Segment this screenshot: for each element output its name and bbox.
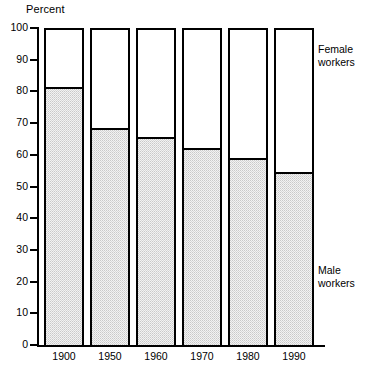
legend-male-workers: Male workers [318, 264, 355, 289]
y-axis-tick-mark [30, 249, 37, 251]
y-axis-tick-mark [30, 122, 37, 124]
bar-1900 [44, 28, 84, 347]
y-axis-tick-mark [30, 217, 37, 219]
legend-female-line1: Female [318, 43, 353, 55]
y-axis-tick-mark [30, 344, 37, 346]
y-axis-tick-label: 40 [0, 212, 28, 223]
legend-female-line2: workers [318, 56, 355, 69]
bar-segment-male-1980 [230, 158, 266, 345]
bar-segment-male-1900 [46, 87, 82, 345]
y-axis-tick-label: 20 [0, 276, 28, 287]
y-axis-tick-mark [30, 186, 37, 188]
y-axis-tick-mark [30, 154, 37, 156]
bar-1990 [274, 28, 314, 347]
y-axis-title: Percent [26, 3, 65, 16]
y-axis-tick-label: 50 [0, 181, 28, 192]
bar-1970 [182, 28, 222, 347]
y-axis-tick-label: 80 [0, 85, 28, 96]
y-axis-line [37, 27, 39, 347]
x-axis-tick-label: 1990 [264, 350, 324, 362]
bar-1950 [90, 28, 130, 347]
bar-1980 [228, 28, 268, 347]
legend-male-line1: Male [318, 264, 341, 276]
legend-male-line2: workers [318, 277, 355, 290]
bar-segment-male-1970 [184, 148, 220, 345]
y-axis-tick-mark [30, 281, 37, 283]
y-axis-tick-label: 70 [0, 117, 28, 128]
y-axis-tick-label: 100 [0, 22, 28, 33]
y-axis-tick-label: 30 [0, 244, 28, 255]
y-axis-tick-mark [30, 27, 37, 29]
bar-segment-male-1960 [138, 137, 174, 345]
y-axis-tick-label: 90 [0, 54, 28, 65]
y-axis-tick-label: 10 [0, 307, 28, 318]
bar-1960 [136, 28, 176, 347]
bar-segment-male-1950 [92, 128, 128, 345]
y-axis-tick-mark [30, 312, 37, 314]
stacked-bar-chart: Percent 1009080706050403020100 190019501… [0, 0, 373, 366]
bar-segment-male-1990 [276, 172, 312, 345]
y-axis-tick-mark [30, 90, 37, 92]
y-axis-tick-label: 60 [0, 149, 28, 160]
legend-female-workers: Female workers [318, 43, 355, 68]
y-axis-tick-label: 0 [0, 339, 28, 350]
y-axis-tick-mark [30, 59, 37, 61]
